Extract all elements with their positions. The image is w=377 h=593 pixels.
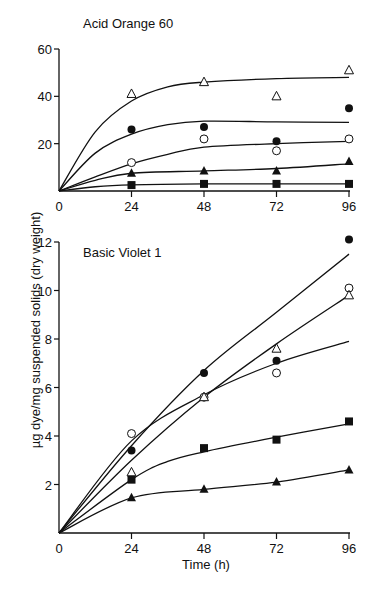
y-tick-label: 20 <box>38 137 52 152</box>
filled-square-marker <box>200 444 208 452</box>
x-axis-label: Time (h) <box>182 557 230 572</box>
filled-circle-marker <box>200 369 208 377</box>
x-tick-label: 96 <box>342 541 356 556</box>
filled-square-marker <box>345 417 353 425</box>
filled-triangle-marker <box>345 465 354 474</box>
y-tick-label: 2 <box>45 478 52 493</box>
top-data-points <box>127 65 354 189</box>
x-tick-label: 72 <box>269 199 283 214</box>
filled-square-marker <box>200 180 208 188</box>
x-tick-label: 48 <box>197 199 211 214</box>
bottom-chart-title: Basic Violet 1 <box>83 245 162 260</box>
x-tick-label: 0 <box>55 199 62 214</box>
fit-curve <box>59 424 349 533</box>
filled-triangle-marker <box>272 166 281 175</box>
filled-square-marker <box>273 436 281 444</box>
filled-triangle-marker <box>345 156 354 165</box>
top-panel: Acid Orange 60 204060 024487296 <box>38 16 357 214</box>
open-circle-marker <box>128 159 136 167</box>
x-tick-label: 72 <box>269 541 283 556</box>
bottom-x-ticks: 024487296 <box>55 533 356 556</box>
open-circle-marker <box>128 430 136 438</box>
open-circle-marker <box>200 135 208 143</box>
filled-square-marker <box>128 181 136 189</box>
y-tick-label: 8 <box>45 332 52 347</box>
y-tick-label: 4 <box>45 429 52 444</box>
open-circle-marker <box>345 135 353 143</box>
filled-circle-marker <box>345 104 353 112</box>
x-tick-label: 0 <box>55 541 62 556</box>
filled-circle-marker <box>273 137 281 145</box>
top-y-ticks: 204060 <box>38 42 59 152</box>
filled-circle-marker <box>345 236 353 244</box>
open-triangle-marker <box>272 344 281 353</box>
x-tick-label: 24 <box>124 199 138 214</box>
open-circle-marker <box>273 369 281 377</box>
figure: Acid Orange 60 204060 024487296 Basic Vi… <box>0 0 377 593</box>
filled-square-marker <box>273 180 281 188</box>
filled-circle-marker <box>273 357 281 365</box>
filled-circle-marker <box>128 447 136 455</box>
open-triangle-marker <box>345 65 354 74</box>
open-circle-marker <box>273 147 281 155</box>
y-tick-label: 6 <box>45 381 52 396</box>
x-tick-label: 48 <box>197 541 211 556</box>
y-tick-label: 60 <box>38 42 52 57</box>
fit-curve <box>59 295 349 533</box>
filled-square-marker <box>128 476 136 484</box>
open-triangle-marker <box>127 89 136 98</box>
y-axis-label: µg dye/mg suspended solids (dry weight) <box>28 212 43 449</box>
filled-circle-marker <box>200 123 208 131</box>
filled-square-marker <box>345 180 353 188</box>
open-triangle-marker <box>345 290 354 299</box>
top-x-ticks: 024487296 <box>55 191 356 214</box>
open-triangle-marker <box>127 467 136 476</box>
bottom-panel: Basic Violet 1 24681012 024487296 <box>38 235 357 556</box>
x-tick-label: 96 <box>342 199 356 214</box>
filled-circle-marker <box>128 125 136 133</box>
open-triangle-marker <box>272 91 281 100</box>
top-chart-title: Acid Orange 60 <box>83 16 173 31</box>
bottom-data-points <box>127 236 354 502</box>
x-tick-label: 24 <box>124 541 138 556</box>
y-tick-label: 40 <box>38 89 52 104</box>
